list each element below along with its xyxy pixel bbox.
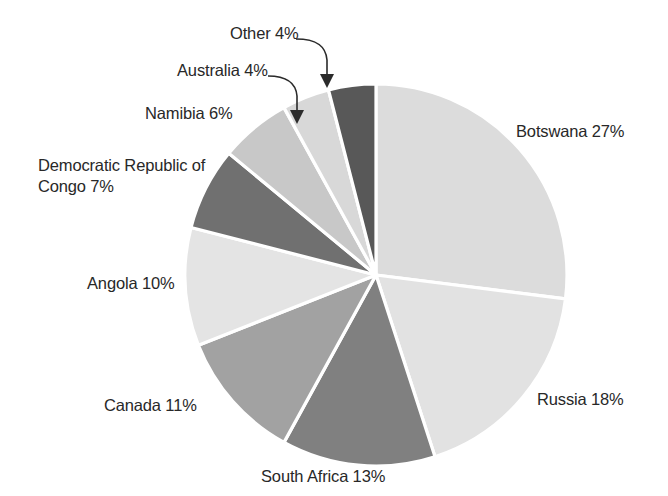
- slice-label-drc: Democratic Republic of Congo 7%: [38, 155, 218, 198]
- pie-slice-group: [185, 84, 567, 466]
- slice-label-angola: Angola 10%: [87, 273, 175, 294]
- slice-label-australia: Australia 4%: [177, 60, 268, 81]
- slice-label-russia: Russia 18%: [537, 389, 624, 410]
- pie-chart: Botswana 27% Russia 18% South Africa 13%…: [0, 0, 668, 496]
- slice-label-other: Other 4%: [230, 23, 299, 44]
- slice-label-namibia: Namibia 6%: [145, 103, 232, 124]
- slice-label-canada: Canada 11%: [104, 395, 197, 416]
- slice-label-south-africa: South Africa 13%: [261, 466, 385, 487]
- pie-chart-canvas: [0, 0, 668, 496]
- arrowhead-other: [320, 74, 334, 88]
- pie-slice[interactable]: [376, 84, 567, 299]
- slice-label-botswana: Botswana 27%: [516, 121, 624, 142]
- leader-line-other: [296, 39, 327, 78]
